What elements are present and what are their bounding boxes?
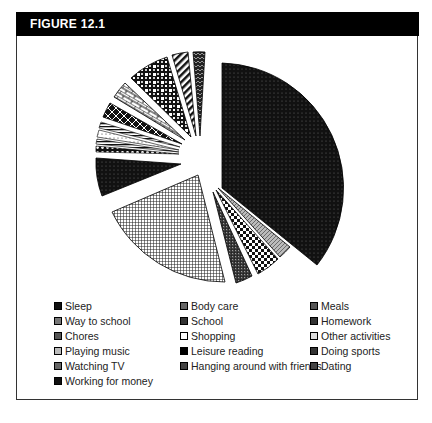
legend-label: Homework <box>321 315 371 327</box>
legend-swatch <box>310 347 318 355</box>
legend-swatch <box>180 332 188 340</box>
legend-swatch <box>54 302 62 310</box>
legend-swatch <box>54 347 62 355</box>
legend-label: Chores <box>65 330 99 342</box>
slice-school <box>112 175 225 282</box>
legend-swatch <box>180 317 188 325</box>
legend-item-playing-music: Playing music <box>54 344 130 358</box>
legend-swatch <box>180 347 188 355</box>
legend-label: Working for money <box>65 375 153 387</box>
legend-label: Sleep <box>65 300 92 312</box>
legend-item-body-care: Body care <box>180 299 238 313</box>
legend-swatch <box>180 362 188 370</box>
legend-item-dating: Dating <box>310 359 351 373</box>
legend-label: Way to school <box>65 315 131 327</box>
legend-item-doing-sports: Doing sports <box>310 344 380 358</box>
legend-item-chores: Chores <box>54 329 99 343</box>
legend-label: Meals <box>321 300 349 312</box>
legend-swatch <box>180 302 188 310</box>
legend-item-leisure-reading: Leisure reading <box>180 344 263 358</box>
legend-label: Other activities <box>321 330 390 342</box>
legend-item-working-for-money: Working for money <box>54 374 153 388</box>
legend-label: Leisure reading <box>191 345 263 357</box>
legend-label: Dating <box>321 360 351 372</box>
legend-swatch <box>54 362 62 370</box>
legend-item-hanging-around: Hanging around with friends <box>180 359 322 373</box>
legend-label: Hanging around with friends <box>191 360 322 372</box>
legend-label: Body care <box>191 300 238 312</box>
legend-swatch <box>54 317 62 325</box>
legend-label: School <box>191 315 223 327</box>
pie-chart <box>0 0 432 300</box>
legend-label: Shopping <box>191 330 235 342</box>
legend-swatch <box>54 377 62 385</box>
legend-swatch <box>310 332 318 340</box>
legend-label: Doing sports <box>321 345 380 357</box>
legend-item-homework: Homework <box>310 314 371 328</box>
legend-swatch <box>310 302 318 310</box>
legend-item-way-to-school: Way to school <box>54 314 131 328</box>
legend-label: Playing music <box>65 345 130 357</box>
legend-item-watching-tv: Watching TV <box>54 359 125 373</box>
legend-item-other-activities: Other activities <box>310 329 390 343</box>
legend-item-sleep: Sleep <box>54 299 92 313</box>
legend-item-school: School <box>180 314 223 328</box>
legend-swatch <box>310 317 318 325</box>
legend-label: Watching TV <box>65 360 125 372</box>
legend-swatch <box>54 332 62 340</box>
legend-swatch <box>310 362 318 370</box>
legend-item-shopping: Shopping <box>180 329 235 343</box>
legend-item-meals: Meals <box>310 299 349 313</box>
